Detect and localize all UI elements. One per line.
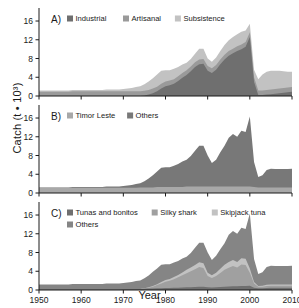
legend-swatch <box>67 113 73 119</box>
legend-label: Others <box>76 220 99 229</box>
legend-swatch <box>127 113 133 119</box>
y-tick-label: 4 <box>28 266 33 276</box>
legend-label: Silky shark <box>160 208 197 217</box>
x-axis-label: Year <box>0 289 299 301</box>
catch-timeseries-figure: Catch (t • 10³) Year 0481216A)Industrial… <box>0 0 299 308</box>
y-axis-label: Catch (t • 10³) <box>11 63 23 173</box>
panel-b: 0481216B)Timor LesteOthers <box>24 105 292 198</box>
legend-swatch <box>67 222 73 228</box>
legend-swatch <box>67 16 73 22</box>
legend-swatch <box>67 210 73 216</box>
y-tick-label: 4 <box>28 72 33 82</box>
y-tick-label: 16 <box>24 16 34 26</box>
legend-label: Artisanal <box>132 14 162 23</box>
legend-swatch <box>175 16 181 22</box>
y-tick-label: 0 <box>28 188 33 198</box>
legend-label: Timor Leste <box>76 111 116 120</box>
stacked-area-panels: 0481216A)IndustrialArtisanalSubsistence0… <box>0 0 299 308</box>
legend-label: Subsistence <box>183 14 224 23</box>
y-tick-label: 0 <box>28 91 33 101</box>
legend-swatch <box>152 210 158 216</box>
panel-label: B) <box>51 111 61 122</box>
area-industrial <box>39 37 292 96</box>
area-others <box>39 117 292 193</box>
legend-label: Skipjack tuna <box>220 208 266 217</box>
y-tick-label: 12 <box>24 35 34 45</box>
legend-swatch <box>123 16 129 22</box>
y-tick-label: 8 <box>28 248 33 258</box>
legend-swatch <box>212 210 218 216</box>
legend-label: Others <box>136 111 159 120</box>
legend-label: Tunas and bonitos <box>76 208 138 217</box>
panel-label: A) <box>51 14 61 25</box>
legend-label: Industrial <box>76 14 107 23</box>
panel-label: C) <box>51 208 62 219</box>
y-tick-label: 4 <box>28 169 33 179</box>
y-tick-label: 8 <box>28 54 33 64</box>
y-tick-label: 12 <box>24 229 34 239</box>
y-tick-label: 12 <box>24 132 34 142</box>
y-tick-label: 16 <box>24 113 34 123</box>
y-tick-label: 16 <box>24 210 34 220</box>
panel-a: 0481216A)IndustrialArtisanalSubsistence <box>24 8 292 101</box>
y-tick-label: 8 <box>28 151 33 161</box>
